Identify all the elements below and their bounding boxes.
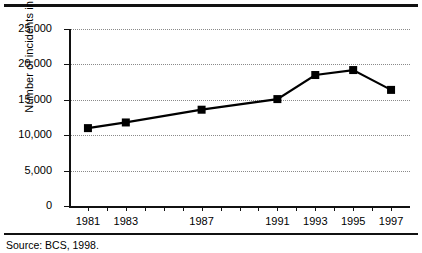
- plot-area: 25,000 20,000 15,000 10,000 5,000 0 1981…: [69, 29, 410, 208]
- data-point-1993: [311, 71, 319, 79]
- data-point-1995: [349, 66, 357, 74]
- chart-figure: Number of incidents in '000s 25,000 20,0…: [0, 0, 422, 253]
- top-divider-rule: [4, 4, 418, 7]
- y-tick-label-0: 0: [0, 200, 52, 211]
- series-line: [88, 70, 391, 128]
- y-tick-label-15000: 15,000: [0, 94, 52, 105]
- source-caption: Source: BCS, 1998.: [6, 239, 99, 251]
- x-tick-label-1997: 1997: [374, 215, 408, 227]
- bottom-divider-rule: [4, 233, 418, 235]
- x-tick-label-1993: 1993: [298, 215, 332, 227]
- y-tick-label-10000: 10,000: [0, 129, 52, 140]
- data-point-1983: [122, 118, 130, 126]
- x-tick-label-1987: 1987: [185, 215, 219, 227]
- data-point-1997: [387, 86, 395, 94]
- y-tick-label-25000: 25,000: [0, 23, 52, 34]
- series-incidents: [69, 29, 410, 208]
- data-point-1987: [198, 106, 206, 114]
- x-tick-label-1991: 1991: [260, 215, 294, 227]
- x-tick-label-1995: 1995: [336, 215, 370, 227]
- x-tick-label-1981: 1981: [71, 215, 105, 227]
- y-tick-label-5000: 5,000: [0, 165, 52, 176]
- y-tick-label-20000: 20,000: [0, 58, 52, 69]
- data-point-1981: [84, 124, 92, 132]
- x-tick-label-1983: 1983: [109, 215, 143, 227]
- data-point-1991: [273, 95, 281, 103]
